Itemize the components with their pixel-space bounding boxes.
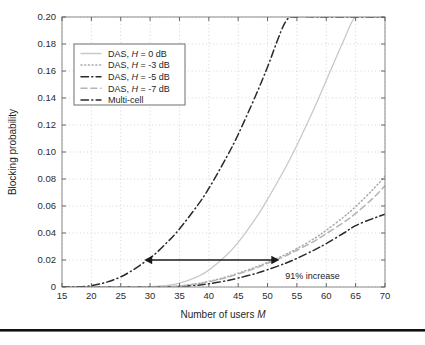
y-tick-label: 0.08: [38, 173, 57, 184]
x-tick-label: 55: [292, 290, 303, 301]
legend-label: Multi-cell: [108, 95, 144, 105]
x-tick-label: 35: [174, 290, 185, 301]
y-tick-label: 0.14: [38, 92, 57, 103]
x-tick-label: 70: [380, 290, 391, 301]
y-tick-label: 0.10: [38, 146, 57, 157]
bottom-rule: [0, 329, 425, 332]
x-axis-title: Number of users M: [180, 309, 266, 320]
y-tick-label: 0.20: [38, 11, 57, 22]
y-tick-label: 0.02: [38, 254, 57, 265]
y-axis-title: Blocking probability: [7, 109, 18, 195]
x-tick-label: 60: [321, 290, 332, 301]
legend: DAS, H = 0 dBDAS, H = -3 dBDAS, H = -5 d…: [74, 44, 185, 105]
x-tick-label: 40: [204, 290, 215, 301]
x-tick-label: 20: [86, 290, 97, 301]
y-tick-label: 0.04: [38, 227, 57, 238]
x-tick-label: 50: [262, 290, 273, 301]
x-tick-label: 25: [115, 290, 126, 301]
y-tick-label: 0.16: [38, 65, 57, 76]
figure-container: 91% increase 152025303540455055606570 00…: [0, 0, 425, 345]
x-tick-label: 30: [145, 290, 156, 301]
legend-label: DAS, H = -5 dB: [108, 72, 170, 82]
legend-label: DAS, H = -7 dB: [108, 84, 170, 94]
x-tick-label: 45: [233, 290, 244, 301]
y-tick-label: 0.06: [38, 200, 57, 211]
legend-label: DAS, H = 0 dB: [108, 49, 167, 59]
chart-svg: 91% increase 152025303540455055606570 00…: [0, 0, 425, 345]
x-tick-label: 65: [350, 290, 361, 301]
y-tick-label: 0.12: [38, 119, 57, 130]
x-tick-label: 15: [57, 290, 68, 301]
y-tick-label: 0: [51, 281, 56, 292]
annotation-label: 91% increase: [285, 271, 340, 281]
legend-label: DAS, H = -3 dB: [108, 60, 170, 70]
y-tick-label: 0.18: [38, 38, 57, 49]
